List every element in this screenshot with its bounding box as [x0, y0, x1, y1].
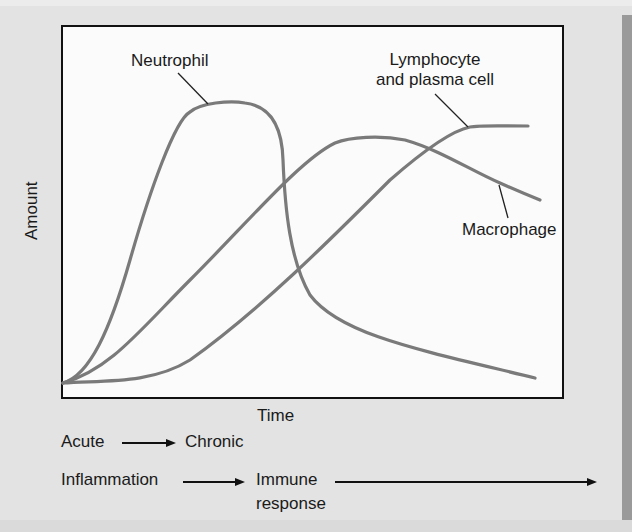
lymphocyte-leader	[435, 94, 468, 127]
chart-curves	[0, 0, 632, 532]
immune-continuation-arrow-head	[587, 478, 597, 486]
neutrophil-curve	[63, 102, 535, 383]
lymphocyte-label: Lymphocyte and plasma cell	[355, 50, 515, 90]
neutrophil-leader	[178, 73, 208, 104]
inflammation-label: Inflammation	[61, 470, 158, 490]
immune-label-line2: response	[256, 494, 326, 514]
y-axis-label: Amount	[22, 181, 42, 240]
inflammation-immune-arrow-head	[235, 478, 245, 486]
lymphocyte-label-line2: and plasma cell	[355, 70, 515, 90]
acute-chronic-arrow-line	[122, 442, 166, 444]
immune-response-label: Immune response	[256, 470, 326, 514]
acute-label: Acute	[61, 432, 104, 452]
acute-chronic-arrow-head	[166, 439, 176, 447]
chronic-label: Chronic	[185, 432, 244, 452]
immune-continuation-arrow-line	[335, 481, 587, 483]
macrophage-leader	[499, 185, 508, 218]
macrophage-label: Macrophage	[462, 220, 557, 240]
inflammation-immune-arrow-line	[183, 481, 235, 483]
lymphocyte-label-line1: Lymphocyte	[355, 50, 515, 70]
x-axis-label: Time	[257, 406, 294, 426]
neutrophil-label: Neutrophil	[131, 51, 209, 71]
immune-label-line1: Immune	[256, 470, 326, 490]
macrophage-curve	[63, 137, 540, 383]
